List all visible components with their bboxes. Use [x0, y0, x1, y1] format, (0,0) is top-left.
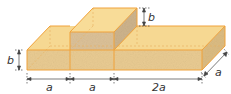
box-front-face — [70, 32, 114, 50]
label-bottom-right: 2a — [152, 81, 166, 94]
diagram-canvas: a a 2a a b b — [0, 0, 231, 94]
label-depth: a — [215, 66, 222, 79]
composite-solid-diagram: a a 2a a b b — [0, 0, 231, 94]
label-height-left: b — [7, 54, 14, 67]
label-bottom-middle: a — [89, 81, 96, 94]
label-height-top: b — [148, 11, 155, 24]
label-bottom-left: a — [46, 81, 53, 94]
